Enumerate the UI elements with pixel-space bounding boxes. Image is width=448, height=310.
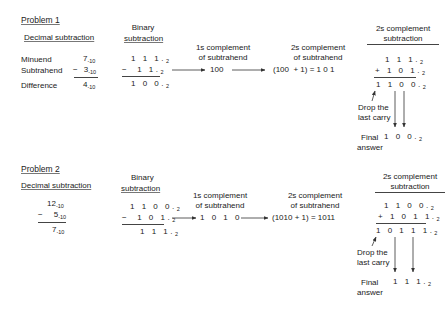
drop-carry-arrow-icon [372, 237, 376, 246]
arrows-layer [0, 0, 448, 310]
drop-carry-arrow-icon [372, 91, 375, 101]
